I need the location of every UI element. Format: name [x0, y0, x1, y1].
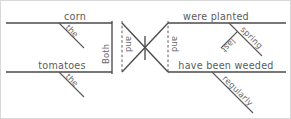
label-conjunction-and-left: and: [124, 36, 134, 52]
label-modifier-the-upper: the: [64, 22, 81, 39]
sentence-diagram-svg: corn the tomatoes the Both and and were …: [0, 0, 291, 119]
diverge-arm-upper-right: [145, 23, 168, 48]
label-verb-were-planted: were planted: [183, 11, 249, 22]
label-verb-have-been-weeded: have been weeded: [178, 60, 273, 71]
sentence-diagram-canvas: corn the tomatoes the Both and and were …: [0, 0, 291, 119]
label-conjunction-and-right: and: [170, 36, 180, 52]
label-modifier-spring: spring: [239, 24, 265, 50]
label-subject-tomatoes: tomatoes: [38, 60, 85, 71]
label-subject-corn: corn: [64, 11, 86, 22]
label-conjunction-both: Both: [101, 44, 111, 64]
diverge-arm-lower-right: [145, 48, 168, 73]
label-modifier-last: last: [219, 37, 238, 56]
label-modifier-the-lower: the: [64, 71, 81, 88]
label-modifier-regularly: regularly: [221, 73, 256, 108]
